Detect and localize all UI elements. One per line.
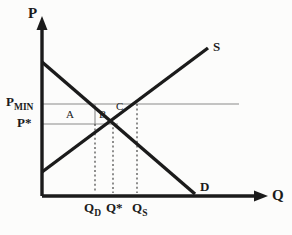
price-floor-label-text: P	[6, 94, 14, 109]
equilibrium-price-label: P*	[17, 116, 31, 129]
area-a-label: A	[66, 109, 74, 120]
price-floor-label-subscript: MIN	[14, 102, 34, 112]
horizontal-axis-arrowhead	[254, 191, 268, 202]
demand-curve-label: D	[200, 180, 209, 193]
quantity-supplied-label-subscript: S	[142, 208, 147, 218]
quantity-demanded-label-subscript: D	[94, 208, 101, 218]
quantity-supplied-label: QS	[132, 201, 147, 218]
equilibrium-quantity-label: Q*	[106, 201, 123, 214]
demand-curve	[42, 62, 195, 194]
supply-demand-figure: P Q S D PMIN P* A B C QD Q* QS	[0, 0, 292, 235]
vertical-axis-label: P	[28, 6, 37, 21]
point-c-label: C	[116, 101, 123, 112]
quantity-supplied-label-text: Q	[132, 200, 142, 215]
quantity-demanded-label: QD	[84, 201, 101, 218]
price-floor-label: PMIN	[6, 95, 33, 112]
vertical-axis-arrowhead	[37, 16, 48, 30]
quantity-demanded-label-text: Q	[84, 200, 94, 215]
supply-curve-label: S	[213, 40, 220, 53]
diagram-canvas	[0, 0, 292, 235]
area-b-label: B	[99, 109, 106, 120]
horizontal-axis-label: Q	[272, 188, 284, 203]
